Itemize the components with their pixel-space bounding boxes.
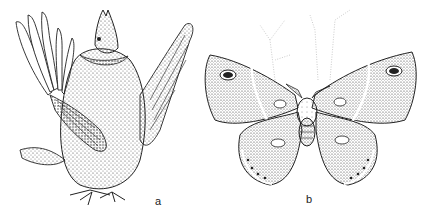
panel-label-b: b bbox=[306, 193, 312, 205]
panel-a-grouse: a bbox=[0, 0, 200, 218]
panel-label-a: a bbox=[155, 195, 161, 207]
panel-b-moth: b bbox=[190, 0, 427, 218]
grouse-illustration bbox=[0, 0, 200, 218]
moth-illustration bbox=[190, 0, 427, 218]
